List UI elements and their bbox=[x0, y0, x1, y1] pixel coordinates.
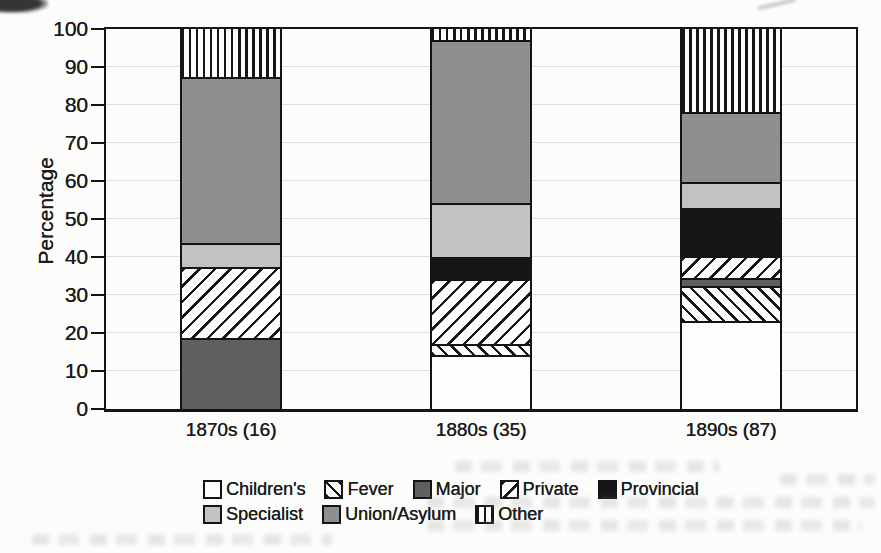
stacked-bar-1870s-16 bbox=[180, 27, 282, 411]
page-bleed-through bbox=[780, 474, 875, 485]
legend-swatch-union-asylum-icon bbox=[322, 505, 341, 524]
bar-segment-private bbox=[432, 279, 530, 344]
bar-segment-other bbox=[432, 29, 530, 40]
legend-item-fever: Fever bbox=[324, 477, 393, 501]
y-tick-label: 100 bbox=[18, 17, 88, 41]
y-axis-tick bbox=[91, 66, 104, 68]
y-tick-label: 90 bbox=[18, 55, 88, 79]
y-axis-tick bbox=[91, 332, 104, 334]
legend-label: Specialist bbox=[226, 502, 303, 526]
x-category-label: 1890s (87) bbox=[646, 419, 816, 441]
y-axis-tick bbox=[91, 256, 104, 258]
bar-segment-specialist bbox=[432, 203, 530, 257]
y-tick-label: 60 bbox=[18, 169, 88, 193]
bar-segment-major bbox=[182, 338, 280, 409]
bar-segment-union-asylum bbox=[682, 112, 780, 182]
y-axis-tick bbox=[91, 142, 104, 144]
y-axis-tick bbox=[91, 370, 104, 372]
bar-segment-provincial bbox=[682, 208, 780, 256]
x-category-label: 1870s (16) bbox=[146, 419, 316, 441]
y-tick-label: 20 bbox=[18, 321, 88, 345]
legend-label: Children's bbox=[226, 477, 305, 501]
y-tick-label: 0 bbox=[18, 397, 88, 421]
bar-segment-children-s bbox=[682, 321, 780, 409]
legend-swatch-major-icon bbox=[413, 480, 432, 499]
scan-edge-mark bbox=[758, 0, 796, 10]
bar-segment-private bbox=[682, 256, 780, 278]
legend-swatch-provincial-icon bbox=[598, 480, 617, 499]
bar-segment-fever bbox=[432, 344, 530, 355]
bar-segment-union-asylum bbox=[182, 77, 280, 243]
y-axis-tick bbox=[91, 218, 104, 220]
scan-corner-smudge bbox=[0, 0, 48, 13]
legend-swatch-fever-icon bbox=[324, 480, 343, 499]
bar-segment-specialist bbox=[182, 243, 280, 267]
y-tick-label: 10 bbox=[18, 359, 88, 383]
scanned-figure: Percentage 01020304050607080901001870s (… bbox=[0, 0, 881, 553]
y-axis-tick bbox=[91, 408, 104, 410]
bar-segment-major bbox=[682, 278, 780, 286]
page-bleed-through bbox=[427, 520, 862, 531]
legend-item-children-s: Children's bbox=[203, 477, 305, 501]
y-axis-tick bbox=[91, 180, 104, 182]
y-axis-tick bbox=[91, 294, 104, 296]
y-tick-label: 70 bbox=[18, 131, 88, 155]
bar-segment-specialist bbox=[682, 182, 780, 208]
legend-swatch-children-s-icon bbox=[203, 480, 222, 499]
bar-segment-private bbox=[182, 267, 280, 338]
y-tick-label: 40 bbox=[18, 245, 88, 269]
y-axis-tick bbox=[91, 104, 104, 106]
legend-swatch-private-icon bbox=[500, 480, 519, 499]
bar-segment-other bbox=[682, 29, 780, 112]
bar-segment-provincial bbox=[432, 257, 530, 279]
x-category-label: 1880s (35) bbox=[396, 419, 566, 441]
y-tick-label: 80 bbox=[18, 93, 88, 117]
legend-label: Fever bbox=[347, 477, 393, 501]
y-axis-tick bbox=[91, 28, 104, 30]
page-bleed-through bbox=[32, 534, 332, 545]
stacked-bar-1890s-87 bbox=[680, 27, 782, 411]
legend-item-specialist: Specialist bbox=[203, 502, 303, 526]
y-tick-label: 30 bbox=[18, 283, 88, 307]
y-tick-label: 50 bbox=[18, 207, 88, 231]
page-bleed-through bbox=[455, 461, 720, 472]
bar-segment-children-s bbox=[432, 355, 530, 409]
stacked-bar-1880s-35 bbox=[430, 27, 532, 411]
bar-segment-other bbox=[182, 29, 280, 77]
bar-segment-fever bbox=[682, 286, 780, 321]
page-bleed-through bbox=[427, 497, 875, 508]
bar-segment-union-asylum bbox=[432, 40, 530, 203]
legend-swatch-specialist-icon bbox=[203, 505, 222, 524]
